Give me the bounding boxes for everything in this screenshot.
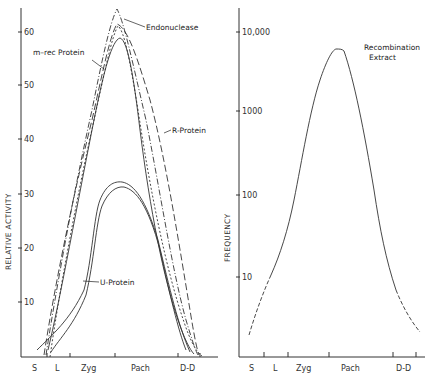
left-y-ticks: 10 20 30 40 50 60 (18, 28, 34, 307)
arrow-u-protein (83, 281, 99, 282)
left-y-label: RELATIVE ACTIVITY (4, 193, 13, 270)
label-mrec-protein: m–rec Protein (33, 48, 85, 57)
arrow-r-protein (164, 130, 171, 133)
left-ytick-50: 50 (24, 81, 34, 90)
right-x-ticks (264, 352, 416, 357)
left-ytick-20: 20 (24, 244, 34, 253)
right-ytick-1000: 1000 (242, 107, 262, 116)
curve-recombination-extract-dashed-right (396, 290, 420, 332)
label-r-protein: R-Protein (172, 126, 206, 135)
curve-recombination-extract (271, 49, 396, 290)
arrow-endonuclease (124, 19, 145, 27)
label-u-protein: U-Protein (100, 278, 135, 287)
left-ytick-10: 10 (24, 298, 34, 307)
label-recombination: Recombination (364, 43, 420, 52)
left-stage-s: S (32, 364, 37, 373)
right-stage-pach: Pach (341, 364, 360, 373)
right-stage-dd: D-D (396, 364, 411, 373)
left-ytick-30: 30 (24, 190, 34, 199)
right-y-label: FREQUENCY (223, 213, 232, 262)
label-extract: Extract (369, 53, 396, 62)
right-stage-zyg: Zyg (296, 364, 311, 373)
left-x-ticks (47, 353, 200, 357)
right-ytick-100: 100 (242, 191, 257, 200)
curve-endonuclease (50, 26, 202, 357)
label-endonuclease: Endonuclease (146, 23, 199, 32)
left-stage-l: L (55, 364, 60, 373)
curve-mrec-protein (48, 38, 194, 354)
left-ytick-60: 60 (24, 28, 34, 37)
right-ytick-10000: 10,000 (242, 28, 270, 37)
right-y-ticks: 10 100 1000 10,000 (236, 28, 270, 282)
curve-recombination-extract-dashed-left (249, 275, 271, 335)
left-stage-pach: Pach (131, 364, 150, 373)
right-ytick-10: 10 (242, 273, 252, 282)
left-ytick-40: 40 (24, 135, 34, 144)
left-chart: 10 20 30 40 50 60 RELATIVE ACTIVITY S L … (4, 8, 218, 373)
curve-r-protein (44, 24, 199, 355)
left-stage-zyg: Zyg (81, 364, 96, 373)
right-stage-s: S (249, 364, 254, 373)
right-chart: 10 100 1000 10,000 FREQUENCY S L Zyg Pac… (223, 8, 425, 373)
figure: 10 20 30 40 50 60 RELATIVE ACTIVITY S L … (0, 0, 435, 377)
right-stage-l: L (273, 364, 278, 373)
curve-u-protein-outer (37, 182, 190, 352)
left-stage-dd: D-D (180, 364, 195, 373)
